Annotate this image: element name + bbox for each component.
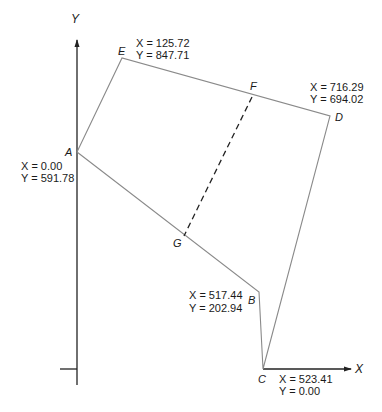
point-a-y: Y = 591.78: [21, 172, 74, 184]
boundary: [77, 58, 330, 369]
traverse-diagram: Y X A B C D E F G X = 125.72 Y = 847.71 …: [0, 0, 382, 412]
x-axis-label: X: [354, 362, 364, 376]
point-d-label: D: [335, 111, 343, 123]
point-a-label: A: [64, 146, 72, 158]
dividing-line-fg: [184, 97, 252, 236]
point-e-y: Y = 847.71: [136, 49, 189, 61]
point-e-x: X = 125.72: [136, 37, 190, 49]
point-g-label: G: [173, 237, 182, 249]
point-b-label: B: [248, 294, 255, 306]
coordinate-labels: X = 125.72 Y = 847.71 X = 716.29 Y = 694…: [21, 37, 364, 397]
axes: Y X: [60, 12, 364, 385]
point-labels: A B C D E F G: [64, 45, 343, 385]
point-e-label: E: [118, 45, 126, 57]
point-b-y: Y = 202.94: [189, 302, 242, 314]
point-c-label: C: [258, 373, 266, 385]
boundary-lines: [77, 58, 330, 369]
point-b-x: X = 517.44: [189, 289, 243, 301]
y-axis-label: Y: [71, 12, 80, 26]
point-f-label: F: [250, 80, 258, 92]
point-d-x: X = 716.29: [310, 81, 364, 93]
point-a-x: X = 0.00: [21, 160, 62, 172]
point-d-y: Y = 694.02: [310, 93, 363, 105]
point-c-x: X = 523.41: [279, 373, 333, 385]
point-c-y: Y = 0.00: [279, 385, 320, 397]
